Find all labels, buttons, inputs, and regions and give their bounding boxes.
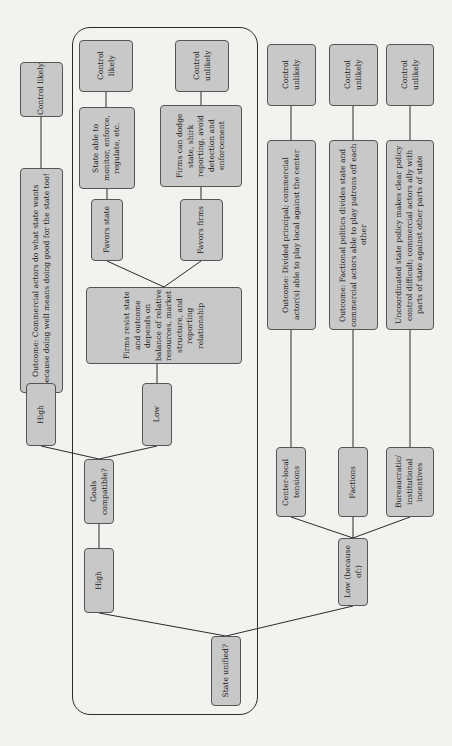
state-able-node: State able to monitor, enforce, regulate… bbox=[79, 107, 135, 189]
goals-low-label: Low bbox=[152, 406, 163, 422]
outcome-divided-principal: Outcome: Divided principal; commercial a… bbox=[267, 140, 316, 330]
outcome-label: Outcome: Commercial actors do what state… bbox=[31, 169, 52, 392]
favors-firms-label: Favors firms bbox=[196, 206, 207, 254]
cause-label: Factions bbox=[348, 466, 359, 498]
result-label: Control likely bbox=[96, 41, 117, 91]
cause-factions: Factions bbox=[338, 447, 368, 517]
favors-state-label: Favors state bbox=[102, 206, 113, 253]
favors-state-node: Favors state bbox=[91, 199, 123, 261]
cause-bureaucratic: Bureaucratic/ institutional incentives bbox=[386, 447, 434, 517]
outcome-label: Uncoordinated state policy makes clear p… bbox=[394, 141, 426, 329]
result-control-likely-goals-high: Control likely bbox=[20, 62, 63, 117]
result-control-unlikely-favors-firms: Control unlikely bbox=[175, 40, 229, 92]
unified-high-node: High bbox=[84, 548, 114, 613]
not-unified-low-node: Low (because of:) bbox=[338, 538, 368, 606]
goals-compatible-label: Goals compatible? bbox=[89, 460, 110, 523]
result-label: Control unlikely bbox=[281, 45, 302, 105]
state-able-label: State able to monitor, enforce, regulate… bbox=[91, 108, 123, 188]
outcome-factional-politics: Outcome: Factional politics divides stat… bbox=[329, 140, 378, 330]
result-control-likely-favors-state: Control likely bbox=[79, 40, 133, 92]
state-unified-label: State unified? bbox=[221, 644, 232, 697]
result-label: Control unlikely bbox=[343, 45, 364, 105]
result-label: Control unlikely bbox=[400, 45, 421, 105]
cause-label: Center-local tensions bbox=[281, 448, 302, 516]
outcome-label: Outcome: Factional politics divides stat… bbox=[338, 141, 370, 329]
result-label: Control unlikely bbox=[192, 41, 213, 91]
outcome-label: Outcome: Divided principal; commercial a… bbox=[281, 141, 302, 329]
goals-high-node: High bbox=[26, 383, 56, 446]
goals-compatible-node: Goals compatible? bbox=[84, 459, 114, 524]
firms-dodge-label: Firms can dodge state, shirk reporting, … bbox=[175, 106, 228, 186]
firms-resist-label: Firms resist state and outcome depends o… bbox=[122, 288, 206, 363]
outcome-goals-compatible: Outcome: Commercial actors do what state… bbox=[20, 168, 63, 393]
result-control-unlikely-factions: Control unlikely bbox=[329, 44, 378, 106]
favors-firms-node: Favors firms bbox=[180, 199, 223, 261]
not-unified-low-label: Low (because of:) bbox=[343, 539, 364, 605]
firms-resist-node: Firms resist state and outcome depends o… bbox=[86, 287, 242, 364]
goals-high-label: High bbox=[36, 405, 47, 424]
result-control-unlikely-center-local: Control unlikely bbox=[267, 44, 316, 106]
state-unified-root: State unified? bbox=[211, 636, 241, 706]
cause-center-local: Center-local tensions bbox=[276, 447, 306, 517]
goals-low-node: Low bbox=[142, 383, 172, 446]
firms-dodge-node: Firms can dodge state, shirk reporting, … bbox=[160, 105, 242, 187]
outcome-uncoordinated-policy: Uncoordinated state policy makes clear p… bbox=[386, 140, 434, 330]
result-control-unlikely-bureaucratic: Control unlikely bbox=[386, 44, 434, 106]
unified-high-label: High bbox=[94, 571, 105, 590]
result-label: Control likely bbox=[36, 63, 47, 115]
cause-label: Bureaucratic/ institutional incentives bbox=[394, 448, 426, 516]
